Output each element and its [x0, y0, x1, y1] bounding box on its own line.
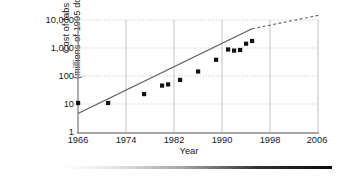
data-point — [244, 42, 248, 46]
data-point — [106, 101, 110, 105]
x-axis-title: Year — [0, 146, 338, 156]
data-point — [76, 101, 80, 105]
data-point — [142, 92, 146, 96]
data-point — [160, 84, 164, 88]
x-tick-label: 1974 — [116, 135, 137, 146]
x-tick-label: 1998 — [260, 135, 281, 146]
data-point-markers — [76, 39, 254, 105]
page-edge-gradient-bar — [62, 166, 332, 169]
x-tick-label: 1990 — [212, 135, 233, 146]
x-tick-label: 2006 — [307, 135, 328, 146]
horizontal-gridlines — [78, 20, 318, 104]
data-point — [178, 78, 182, 82]
data-point — [196, 69, 200, 73]
trend-line-solid — [78, 29, 252, 114]
trend-line-dashed-extrapolation — [252, 15, 319, 29]
data-point — [232, 49, 236, 53]
x-tick-label: 1982 — [164, 135, 185, 146]
data-point — [250, 39, 254, 43]
chart-figure: Cost of fabs (millions of 1995 dollars) … — [0, 0, 338, 158]
data-point — [214, 58, 218, 62]
data-point — [238, 48, 242, 52]
x-axis-title-text: Year — [180, 146, 199, 156]
data-point — [226, 47, 230, 51]
x-tick-label: 1966 — [68, 135, 89, 146]
screenshot-root: Cost of fabs (millions of 1995 dollars) … — [0, 0, 338, 176]
data-point — [166, 82, 170, 86]
